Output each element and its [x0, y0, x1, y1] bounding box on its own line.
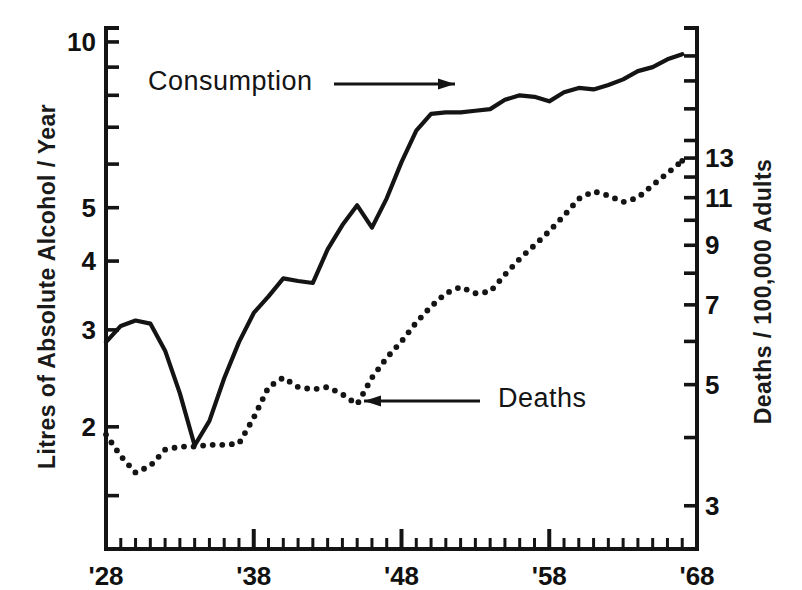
- x-tick-label-28: '28: [88, 561, 123, 590]
- x-axis-ticks: [106, 529, 697, 549]
- series-line-consumption: [106, 54, 682, 445]
- series-label-consumption: Consumption: [148, 66, 313, 97]
- right-tick-label-9: 9: [705, 230, 719, 261]
- right-tick-label-11: 11: [705, 182, 733, 213]
- x-tick-label-58: '58: [532, 561, 567, 590]
- left-tick-label-10: 10: [40, 26, 96, 57]
- left-axis-title: Litres of Absolute Alcohol / Year: [34, 52, 61, 522]
- chart-plot-area: [0, 0, 802, 590]
- chart-figure: Litres of Absolute Alcohol / Year Deaths…: [0, 0, 802, 590]
- left-tick-label-5: 5: [40, 192, 96, 223]
- left-tick-label-2: 2: [40, 411, 96, 442]
- left-tick-label-3: 3: [40, 314, 96, 345]
- left-tick-label-4: 4: [40, 246, 96, 277]
- annotation-arrows: [334, 79, 480, 407]
- right-axis-title: Deaths / 100,000 Adults: [750, 57, 777, 527]
- right-tick-label-3: 3: [705, 490, 719, 521]
- series-label-deaths: Deaths: [498, 383, 587, 414]
- axis-lines: [106, 28, 697, 549]
- right-tick-label-5: 5: [705, 369, 719, 400]
- x-tick-label-48: '48: [384, 561, 419, 590]
- x-tick-label-38: '38: [236, 561, 271, 590]
- right-tick-label-7: 7: [705, 289, 719, 320]
- right-tick-label-13: 13: [705, 143, 734, 174]
- x-tick-label-68: '68: [679, 561, 714, 590]
